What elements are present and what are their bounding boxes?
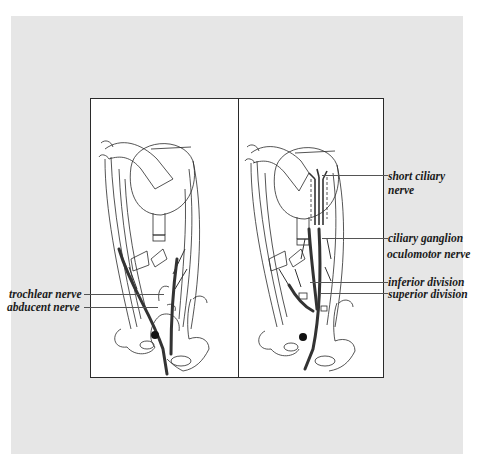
label-superior-division: superior division [388, 288, 468, 301]
label-trochlear-nerve: trochlear nerve [9, 288, 82, 301]
label-ciliary-ganglion: ciliary ganglion [388, 232, 463, 245]
label-short-ciliary: short ciliary [388, 170, 445, 183]
short-ciliary-leader-line [322, 175, 388, 176]
ciliary-ganglion-leader-line [322, 238, 388, 239]
inferior-division-leader-line [310, 282, 388, 283]
superior-division-leader-line [320, 293, 388, 294]
label-abducent-nerve: abducent nerve [7, 301, 80, 314]
left-orbit-drawing [91, 99, 238, 377]
label-oculomotor-nerve: oculomotor nerve [387, 248, 470, 261]
label-nerve: nerve [388, 184, 414, 197]
trochlear-leader-line [84, 294, 164, 295]
abducent-leader-line [84, 307, 158, 308]
